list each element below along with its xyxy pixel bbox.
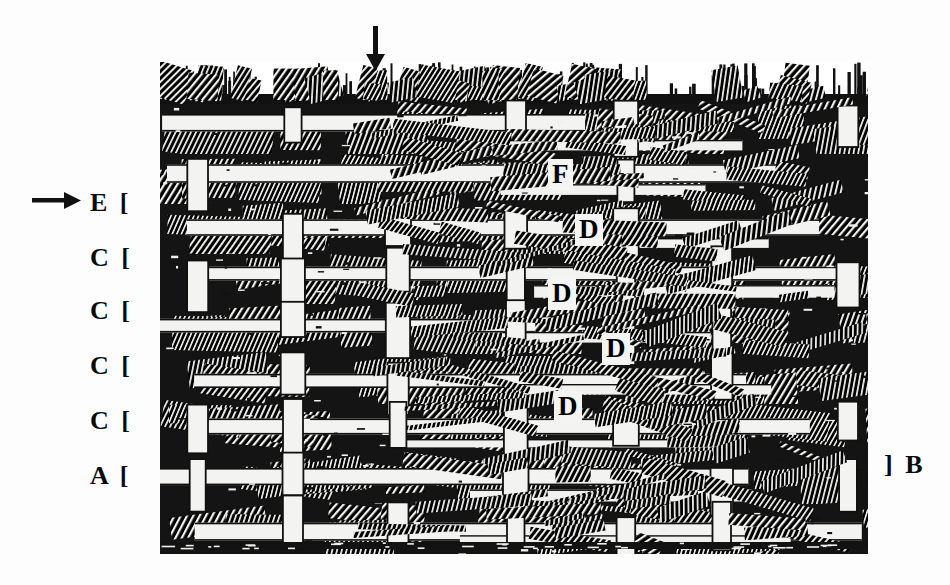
interior-label-d-2: D xyxy=(549,279,575,309)
figure-root: E [ C [ C [ C [ C [ A [ ] B F D D D D xyxy=(0,0,950,585)
layer-label-e: E [ xyxy=(90,190,132,216)
layer-label-c-3: C [ xyxy=(90,353,133,379)
interior-label-d-3: D xyxy=(603,334,629,364)
layer-label-b: ] B xyxy=(884,452,926,478)
layer-label-c-1: C [ xyxy=(90,245,133,271)
interior-label-d-4: D xyxy=(555,392,581,422)
cross-section-micrograph xyxy=(160,62,868,554)
micrograph-canvas xyxy=(160,62,868,554)
down-arrow xyxy=(362,26,392,72)
layer-label-a: A [ xyxy=(90,463,132,489)
layer-label-c-2: C [ xyxy=(90,298,133,324)
interior-label-f: F xyxy=(549,160,572,190)
interior-label-d-1: D xyxy=(576,215,602,245)
layer-label-c-4: C [ xyxy=(90,408,133,434)
right-arrow xyxy=(32,188,82,214)
